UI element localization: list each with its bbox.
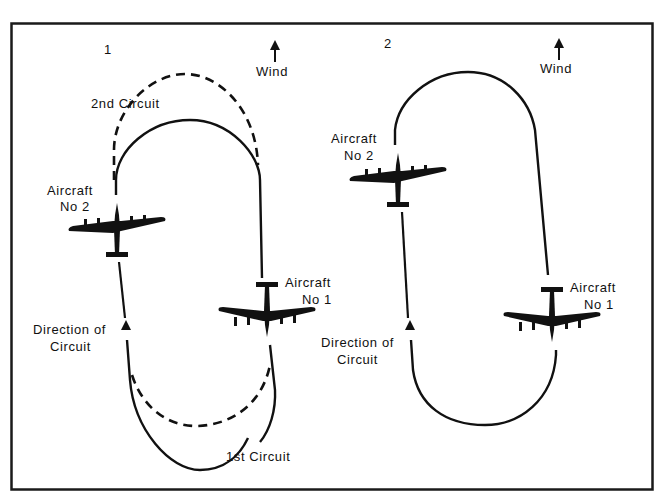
wind-label: Wind xyxy=(256,64,288,79)
aircraft-1-icon xyxy=(219,282,316,337)
wind-arrow-icon xyxy=(554,38,564,60)
downwind-leg-bottom xyxy=(260,345,275,442)
circuit-upwind-leg xyxy=(119,262,125,318)
wind-label: Wind xyxy=(540,61,572,76)
direction-label-line1: Direction of xyxy=(33,322,106,337)
aircraft-1-label-line2: No 1 xyxy=(584,297,614,312)
direction-label-line2: Circuit xyxy=(50,339,91,354)
aircraft-1-icon xyxy=(504,287,601,342)
panel-2: 2 Wind Direction of Circuit Aircraft No … xyxy=(321,36,616,425)
wind-arrow-icon xyxy=(270,40,280,62)
circuit-upwind-leg xyxy=(402,212,408,318)
panel-number: 1 xyxy=(104,42,111,57)
aircraft-2-label-line2: No 2 xyxy=(344,148,374,163)
aircraft-2-label-line2: No 2 xyxy=(60,199,90,214)
direction-arrow-icon xyxy=(405,320,415,330)
first-circuit-label: 1st Circuit xyxy=(226,449,290,464)
first-circuit-path-top xyxy=(116,120,262,278)
direction-arrow-icon xyxy=(121,320,131,330)
panel-number: 2 xyxy=(384,36,391,51)
circuit-diagram: 1 Wind 2nd Circuit Direction of Circuit … xyxy=(0,0,659,496)
second-circuit-label: 2nd Circuit xyxy=(91,96,160,111)
second-circuit-path-top xyxy=(114,74,258,180)
aircraft-1-label-line1: Aircraft xyxy=(285,275,331,290)
direction-label-line1: Direction of xyxy=(321,335,394,350)
direction-label-line2: Circuit xyxy=(337,352,378,367)
aircraft-1-label-line1: Aircraft xyxy=(570,280,616,295)
aircraft-2-label-line1: Aircraft xyxy=(47,183,93,198)
aircraft-1-label-line2: No 1 xyxy=(302,292,332,307)
second-circuit-path-bottom xyxy=(132,365,270,426)
panel-1: 1 Wind 2nd Circuit Direction of Circuit … xyxy=(33,40,332,470)
aircraft-2-label-line1: Aircraft xyxy=(331,131,377,146)
circuit-path-bottom xyxy=(411,340,556,425)
